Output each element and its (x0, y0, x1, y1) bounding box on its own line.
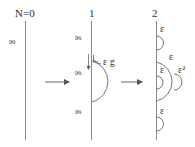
line-label-g: g (9, 40, 18, 44)
recursion-diagram: N=0 g 1 ε g g g g 2 ε ε ε ε² (0, 0, 195, 147)
small-arc-outer (174, 74, 182, 90)
semicircle-arc (92, 61, 108, 102)
small-arc-bottom (157, 117, 164, 131)
arc-label-eps-inner: ε (160, 64, 164, 75)
small-arc-inner (157, 76, 164, 89)
line-label-g-top: g (75, 36, 84, 40)
arc-label-eps-bottom: ε (160, 105, 164, 116)
line-label-g-mid: g (75, 71, 84, 75)
arc-label-eps-top: ε (160, 23, 164, 34)
panel-2: 2 ε ε ε ε² ε (152, 7, 185, 140)
panel-n0: N=0 g (9, 7, 35, 140)
small-arc-top (157, 36, 164, 50)
panel-title-n0: N=0 (15, 7, 35, 19)
panel-title-2: 2 (152, 7, 158, 19)
arc-label-eps-large: ε (169, 51, 173, 62)
panel-1: 1 ε g g g g (75, 7, 115, 140)
large-arc (157, 62, 173, 101)
line-label-g-bottom: g (75, 110, 84, 114)
arc-label-eps-g: ε g (103, 56, 115, 67)
panel-title-1: 1 (89, 7, 95, 19)
arc-label-eps-squared: ε² (178, 64, 185, 75)
